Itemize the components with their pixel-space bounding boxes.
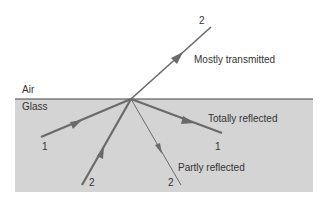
mostly-transmitted-label: Mostly transmitted <box>194 55 275 65</box>
refraction-diagram <box>0 0 320 199</box>
glass-label: Glass <box>22 102 48 112</box>
ray-1-out-label: 1 <box>215 142 221 152</box>
ray-2-reflected-label: 2 <box>168 178 174 188</box>
ray-1-in-label: 1 <box>42 142 48 152</box>
partly-reflected-label: Partly reflected <box>178 163 245 173</box>
air-label: Air <box>22 85 34 95</box>
ray-2-in-label: 2 <box>89 178 95 188</box>
totally-reflected-label: Totally reflected <box>208 114 277 124</box>
ray-2-transmitted-label: 2 <box>199 16 205 26</box>
